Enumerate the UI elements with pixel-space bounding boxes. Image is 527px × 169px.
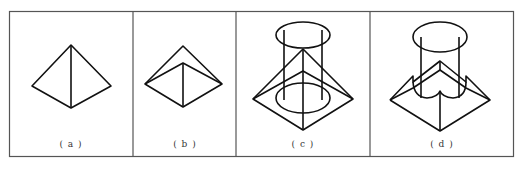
figure-frame [10, 12, 514, 157]
panel-d-pyramid-cutout [390, 22, 490, 131]
panel-d-label: ( d ) [430, 139, 454, 149]
panel-a-pyramid [32, 45, 111, 108]
panel-c-pyramid-cylinder [253, 22, 353, 130]
panel-b-label: ( b ) [173, 139, 197, 149]
panel-a-label: ( a ) [59, 139, 82, 149]
panel-b-pyramid [145, 46, 222, 107]
figure-diagram: ( a ) ( b ) ( c ) ( d ) [0, 0, 527, 169]
panel-c-label: ( c ) [292, 139, 315, 149]
